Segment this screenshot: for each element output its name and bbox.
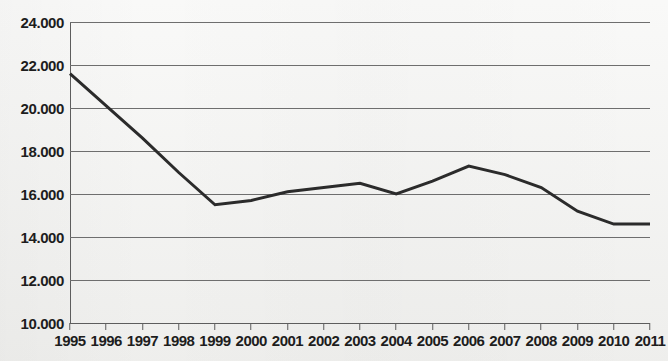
y-tick-label-14000: 14.000: [2, 229, 64, 246]
x-tick-label-1998: 1998: [163, 332, 194, 349]
x-tick-label-2001: 2001: [272, 332, 303, 349]
x-tick-2006: [468, 323, 469, 330]
x-tick-label-2010: 2010: [598, 332, 629, 349]
y-tick-label-10000: 10.000: [2, 315, 64, 332]
x-tick-2008: [541, 323, 542, 330]
x-tick-label-2008: 2008: [526, 332, 557, 349]
line-chart: 24.00022.00020.00018.00016.00014.00012.0…: [0, 0, 668, 361]
plot-area: [70, 22, 650, 323]
x-tick-label-2005: 2005: [417, 332, 448, 349]
x-tick-1999: [214, 323, 215, 330]
y-tick-label-20000: 20.000: [2, 100, 64, 117]
y-tick-label-18000: 18.000: [2, 143, 64, 160]
x-tick-label-2002: 2002: [308, 332, 339, 349]
x-tick-2009: [577, 323, 578, 330]
y-tick-label-24000: 24.000: [2, 14, 64, 31]
y-tick-label-22000: 22.000: [2, 57, 64, 74]
x-tick-label-1996: 1996: [91, 332, 122, 349]
x-tick-2002: [323, 323, 324, 330]
x-tick-label-2004: 2004: [381, 332, 412, 349]
x-tick-label-2003: 2003: [344, 332, 375, 349]
y-tick-label-12000: 12.000: [2, 272, 64, 289]
x-tick-label-2000: 2000: [236, 332, 267, 349]
x-axis-labels: 1995199619971998199920002001200220032004…: [70, 332, 650, 358]
y-tick-label-16000: 16.000: [2, 186, 64, 203]
x-tick-label-2006: 2006: [453, 332, 484, 349]
x-tick-label-1997: 1997: [127, 332, 158, 349]
x-tick-2004: [396, 323, 397, 330]
x-tick-label-1995: 1995: [54, 332, 85, 349]
x-tick-1995: [69, 323, 70, 330]
x-axis-ticks: [70, 323, 650, 331]
x-tick-label-2011: 2011: [635, 332, 666, 349]
series-1-line: [70, 74, 650, 225]
x-tick-2005: [432, 323, 433, 330]
x-tick-1998: [178, 323, 179, 330]
y-axis-labels: 24.00022.00020.00018.00016.00014.00012.0…: [0, 22, 64, 323]
x-tick-2000: [251, 323, 252, 330]
x-tick-2010: [613, 323, 614, 330]
x-tick-label-2009: 2009: [562, 332, 593, 349]
x-tick-1996: [106, 323, 107, 330]
x-tick-1997: [142, 323, 143, 330]
series-line-layer: [70, 22, 650, 323]
x-tick-label-2007: 2007: [489, 332, 520, 349]
x-tick-2001: [287, 323, 288, 330]
x-tick-2011: [649, 323, 650, 330]
x-tick-label-1999: 1999: [199, 332, 230, 349]
x-tick-2003: [359, 323, 360, 330]
x-tick-2007: [504, 323, 505, 330]
